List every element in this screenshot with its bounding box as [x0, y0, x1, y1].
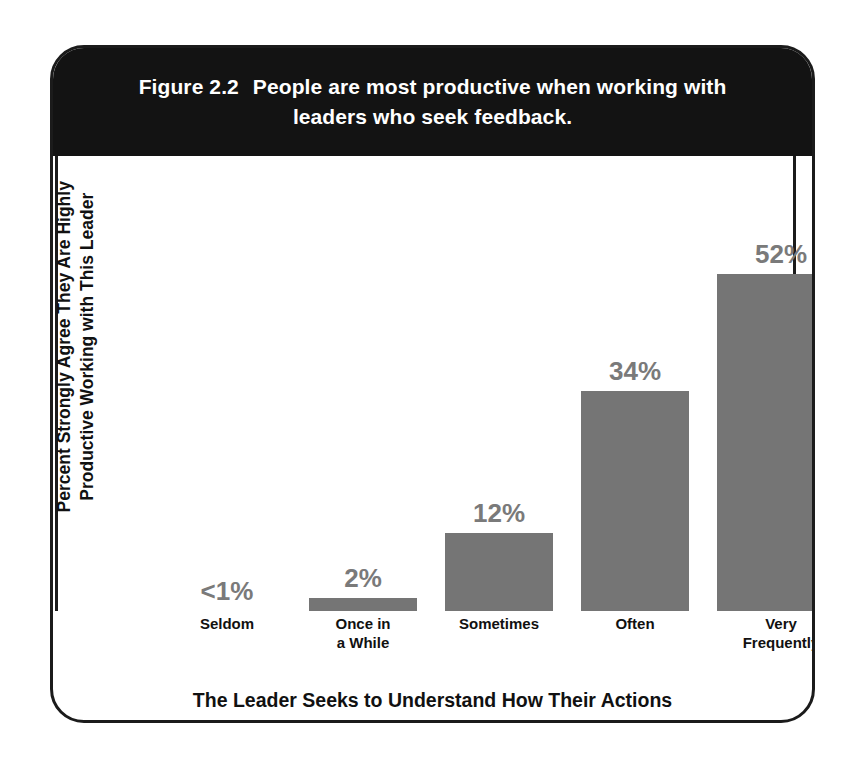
bar-column-very-frequently: 52%	[717, 156, 815, 611]
tick-line: Sometimes	[459, 615, 539, 632]
bar-column-seldom: <1%	[173, 156, 281, 611]
bar-value-label: 52%	[755, 241, 807, 267]
x-axis-title-line-2: Affect Other People’s Performance	[271, 717, 593, 723]
figure-caption-line-1: People are most productive when working …	[253, 75, 726, 98]
y-axis-label-line-2: Productive Working with This Leader	[77, 193, 97, 501]
bar-value-label: 2%	[344, 565, 382, 591]
x-tick-label-often: Often	[581, 615, 689, 634]
bar-rect	[309, 598, 417, 611]
x-tick-label-seldom: Seldom	[173, 615, 281, 634]
figure-title-text: Figure 2.2People are most productive whe…	[139, 72, 727, 133]
x-axis-tick-labels: Seldom Once in a While Sometimes Often V…	[161, 615, 806, 677]
figure-number: Figure 2.2	[139, 75, 239, 98]
figure-title-banner: Figure 2.2People are most productive whe…	[53, 48, 812, 156]
bar-rect	[445, 533, 553, 611]
y-axis-rule	[55, 156, 58, 611]
tick-line: a While	[337, 634, 390, 651]
tick-line: Once in	[335, 615, 390, 632]
bar-column-often: 34%	[581, 156, 689, 611]
x-axis-title: The Leader Seeks to Understand How Their…	[55, 686, 810, 723]
x-axis-title-line-1: The Leader Seeks to Understand How Their…	[193, 689, 672, 711]
x-tick-label-very-frequently: Very Frequently	[717, 615, 815, 653]
x-tick-label-sometimes: Sometimes	[445, 615, 553, 634]
bars-container: <1% 2% 12% 34%	[161, 156, 806, 611]
bar-rect	[581, 391, 689, 611]
bar-rect	[717, 274, 815, 611]
x-tick-label-once-in-a-while: Once in a While	[309, 615, 417, 653]
tick-line: Very	[765, 615, 797, 632]
figure-caption-line-2: leaders who seek feedback.	[293, 105, 572, 128]
tick-line: Seldom	[200, 615, 254, 632]
tick-line: Often	[615, 615, 654, 632]
figure-card: Figure 2.2People are most productive whe…	[50, 45, 815, 723]
bar-value-label: <1%	[201, 578, 254, 604]
tick-line: Frequently	[743, 634, 815, 651]
bar-value-label: 12%	[473, 500, 525, 526]
bar-value-label: 34%	[609, 358, 661, 384]
bar-column-once-in-a-while: 2%	[309, 156, 417, 611]
bar-column-sometimes: 12%	[445, 156, 553, 611]
plot-area: Percent Strongly Agree They Are Highly P…	[55, 156, 810, 720]
y-axis-label: Percent Strongly Agree They Are Highly P…	[53, 137, 99, 557]
